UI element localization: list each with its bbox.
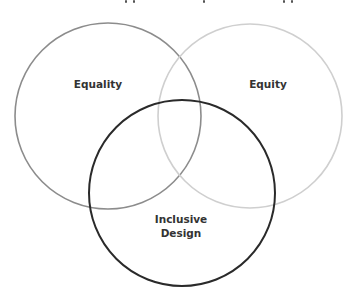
venn-svg	[0, 0, 355, 298]
cropped-heading-fragments	[0, 0, 355, 4]
equity-label: Equity	[249, 77, 287, 91]
equality-circle	[15, 23, 201, 209]
venn-diagram: Equality Equity Inclusive Design	[0, 0, 355, 298]
inclusive-design-circle	[89, 100, 275, 286]
equality-label: Equality	[74, 77, 122, 91]
equity-circle	[158, 24, 342, 208]
inclusive-design-label-line-2: Design	[155, 226, 208, 240]
inclusive-design-label: Inclusive Design	[155, 212, 208, 240]
inclusive-design-label-line-1: Inclusive	[155, 212, 208, 226]
